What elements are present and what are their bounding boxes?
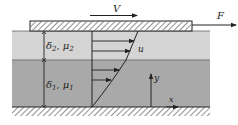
fluid-layer-2 bbox=[12, 31, 210, 60]
moving-plate-hatch bbox=[31, 22, 192, 31]
fluid-layer-1 bbox=[12, 60, 210, 107]
label-u: u bbox=[138, 44, 144, 54]
two-layer-couette-flow-diagram: V F δ2, μ2 δ1, μ1 u y x bbox=[0, 0, 238, 125]
fixed-wall-hatch bbox=[12, 107, 210, 116]
label-x: x bbox=[169, 95, 174, 104]
label-v: V bbox=[113, 3, 122, 14]
label-y: y bbox=[153, 73, 160, 83]
label-f: F bbox=[216, 10, 225, 21]
